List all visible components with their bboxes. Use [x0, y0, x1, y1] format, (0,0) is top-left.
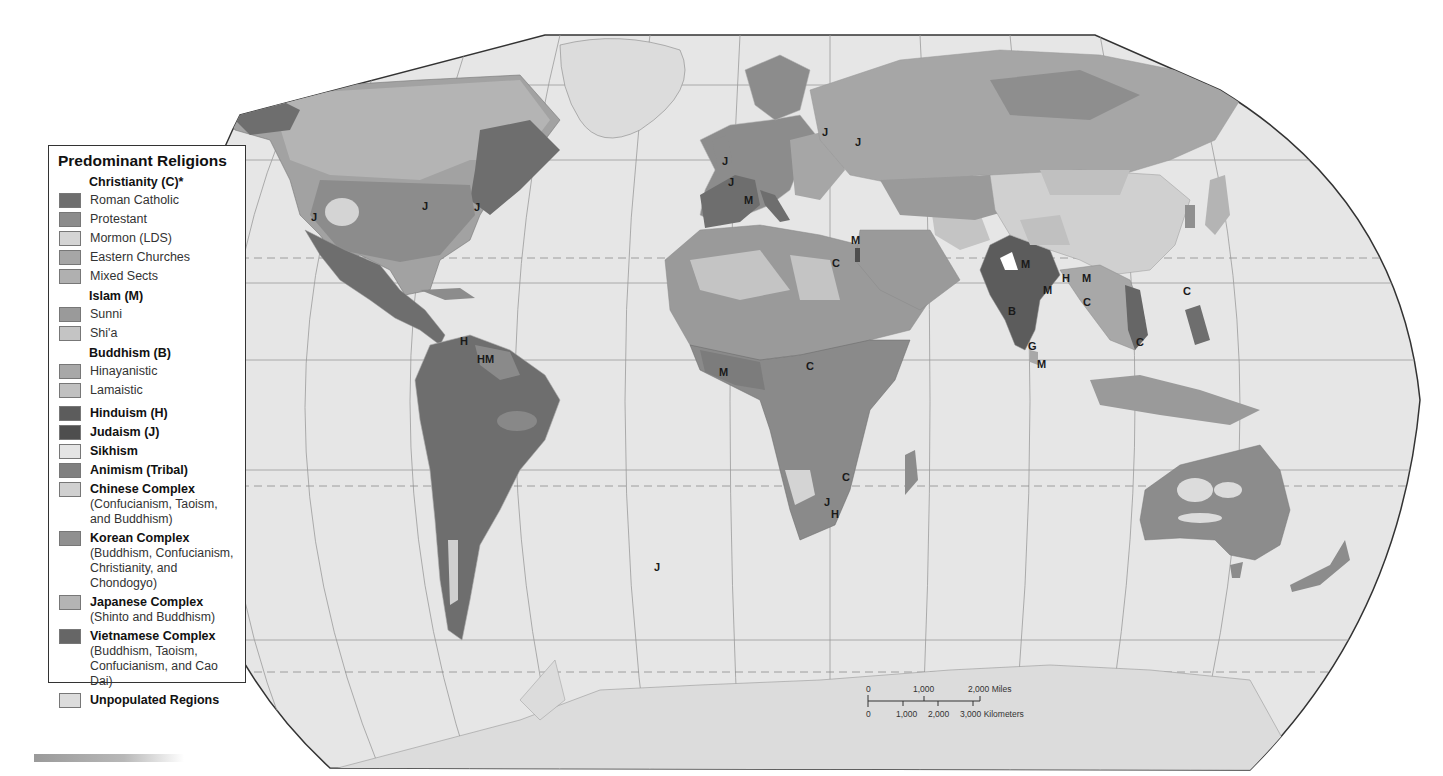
legend-swatch [59, 269, 81, 284]
map-label: C [842, 471, 850, 483]
map-label: M [1021, 258, 1030, 270]
legend-swatch [59, 425, 81, 440]
map-label: J [855, 136, 861, 148]
figure-caption-bar [34, 754, 184, 762]
map-label: G [1028, 340, 1037, 352]
legend-swatch [59, 482, 81, 497]
legend-swatch [59, 406, 81, 421]
mongolia [1040, 170, 1130, 195]
map-label: HM [477, 353, 494, 365]
legend-item-chinese-complex: Chinese Complex(Confucianism, Taoism, an… [59, 481, 239, 527]
central-asia [880, 175, 1010, 220]
legend-item-protestant: Protestant [59, 211, 239, 227]
legend-swatch [59, 326, 81, 341]
map-label: B [1008, 305, 1016, 317]
legend-item-mormon: Mormon (LDS) [59, 230, 239, 246]
legend-item-vietnamese-complex: Vietnamese Complex(Buddhism, Taoism, Con… [59, 628, 239, 689]
map-label: M [851, 234, 860, 246]
scale-miles-1000: 1,000 [913, 684, 935, 694]
legend-swatch [59, 250, 81, 265]
legend-swatch [59, 383, 81, 398]
map-label: H [1062, 272, 1070, 284]
scale-miles-2000: 2,000 Miles [968, 684, 1011, 694]
map-label: M [1082, 272, 1091, 284]
australia-interior-2 [1214, 482, 1242, 498]
legend-item-animism: Animism (Tribal) [59, 462, 239, 478]
map-label: C [832, 257, 840, 269]
korea [1185, 205, 1195, 228]
map-label: M [1037, 358, 1046, 370]
legend-item-korean-complex: Korean Complex(Buddhism, Confucianism, C… [59, 530, 239, 591]
legend: Predominant Religions Christianity (C)* … [48, 145, 246, 683]
map-label: C [806, 360, 814, 372]
legend-group-buddhism: Buddhism (B) Hinayanistic Lamaistic [55, 346, 239, 398]
amazon-tribal [497, 411, 537, 431]
legend-title: Predominant Religions [58, 152, 239, 170]
legend-group-christianity: Christianity (C)* Roman Catholic Protest… [55, 175, 239, 284]
legend-swatch [59, 307, 81, 322]
map-label: J [654, 561, 660, 573]
legend-item-sunni: Sunni [59, 306, 239, 322]
legend-swatch [59, 531, 81, 546]
legend-item-shia: Shi'a [59, 325, 239, 341]
map-label: J [728, 176, 734, 188]
legend-item-lamaistic: Lamaistic [59, 382, 239, 398]
scale-miles-0: 0 [866, 684, 871, 694]
legend-item-roman-catholic: Roman Catholic [59, 192, 239, 208]
legend-swatch [59, 212, 81, 227]
legend-item-japanese-complex: Japanese Complex(Shinto and Buddhism) [59, 594, 239, 625]
scale-km-0: 0 [866, 709, 871, 719]
legend-item-hinduism: Hinduism (H) [59, 405, 239, 421]
map-label: C [1083, 296, 1091, 308]
legend-swatch [59, 193, 81, 208]
map-label: C [1136, 336, 1144, 348]
legend-item-sikhism: Sikhism [59, 443, 239, 459]
australia-interior-1 [1177, 478, 1213, 502]
legend-swatch [59, 463, 81, 478]
israel [855, 248, 860, 262]
legend-item-unpopulated: Unpopulated Regions [59, 692, 239, 708]
map-label: J [822, 126, 828, 138]
map-label: C [1183, 285, 1191, 297]
legend-swatch [59, 444, 81, 459]
map-label: J [422, 200, 428, 212]
scale-km-1000: 1,000 [896, 709, 918, 719]
legend-group-heading: Christianity (C)* [89, 175, 239, 189]
legend-item-mixed-sects: Mixed Sects [59, 268, 239, 284]
legend-swatch [59, 629, 81, 644]
legend-item-judaism: Judaism (J) [59, 424, 239, 440]
map-label: H [460, 335, 468, 347]
legend-swatch [59, 231, 81, 246]
legend-item-hinayanistic: Hinayanistic [59, 363, 239, 379]
map-label: M [719, 366, 728, 378]
legend-group-islam: Islam (M) Sunni Shi'a [55, 289, 239, 341]
legend-swatch [59, 364, 81, 379]
legend-swatch [59, 595, 81, 610]
map-label: M [1043, 284, 1052, 296]
map-label: M [744, 194, 753, 206]
map-label: J [824, 496, 830, 508]
map-label: J [474, 201, 480, 213]
map-label: J [311, 211, 317, 223]
scale-km-2000: 2,000 [928, 709, 950, 719]
legend-group-heading: Buddhism (B) [89, 346, 239, 360]
australia-interior-3 [1178, 513, 1222, 523]
scale-km-3000: 3,000 Kilometers [960, 709, 1024, 719]
legend-group-heading: Islam (M) [89, 289, 239, 303]
utah-mormon [325, 198, 359, 226]
legend-swatch [59, 693, 81, 708]
legend-item-eastern-churches: Eastern Churches [59, 249, 239, 265]
map-label: H [831, 508, 839, 520]
map-label: J [722, 155, 728, 167]
